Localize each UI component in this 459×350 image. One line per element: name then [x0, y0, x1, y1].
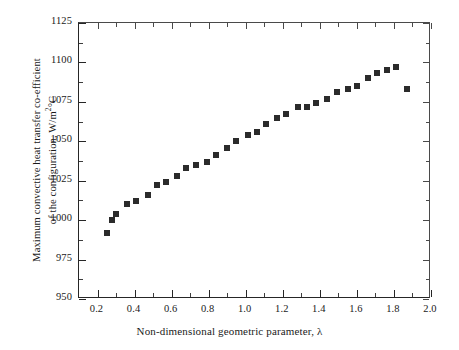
- x-axis-tick-top: [209, 23, 210, 29]
- x-axis-minor-tick-top: [338, 23, 339, 27]
- x-axis-minor-tick-top: [227, 23, 228, 27]
- data-point: [154, 182, 160, 188]
- x-axis-minor-tick: [375, 293, 376, 297]
- data-point: [324, 96, 330, 102]
- y-axis-tick-right: [423, 181, 429, 182]
- data-point: [304, 104, 310, 110]
- y-axis-tick: [79, 141, 86, 142]
- x-axis-tick-top: [135, 23, 136, 29]
- data-point: [313, 100, 319, 106]
- y-axis-tick: [79, 260, 86, 261]
- data-point: [295, 104, 301, 110]
- x-axis-tick-label: 1.8: [376, 303, 410, 314]
- y-axis-title: Maximum convective heat transfer co-effi…: [28, 22, 62, 298]
- x-axis-minor-tick: [412, 293, 413, 297]
- x-axis-tick: [135, 290, 136, 297]
- data-point: [245, 132, 251, 138]
- data-point: [263, 121, 269, 127]
- x-axis-tick: [209, 290, 210, 297]
- x-axis-minor-tick-top: [412, 23, 413, 27]
- data-point: [354, 83, 360, 89]
- y-axis-minor-tick-right: [426, 279, 430, 280]
- x-axis-minor-tick: [301, 293, 302, 297]
- y-axis-minor-tick: [79, 122, 83, 123]
- y-axis-minor-tick: [79, 161, 83, 162]
- y-axis-title-line1: Maximum convective heat transfer co-effi…: [31, 58, 42, 262]
- x-axis-tick-top: [98, 23, 99, 29]
- data-point: [145, 192, 151, 198]
- x-axis-tick-label: 0.6: [154, 303, 188, 314]
- x-axis-minor-tick: [227, 293, 228, 297]
- y-axis-minor-tick: [79, 279, 83, 280]
- x-axis-tick: [320, 290, 321, 297]
- data-point: [393, 64, 399, 70]
- x-axis-tick: [98, 290, 99, 297]
- data-point: [334, 89, 340, 95]
- x-axis-tick: [246, 290, 247, 297]
- y-axis-tick: [79, 181, 86, 182]
- data-points-layer: [79, 23, 429, 297]
- data-point: [183, 165, 189, 171]
- y-axis-title-exponent: 2: [44, 107, 53, 111]
- x-axis-tick-top: [320, 23, 321, 29]
- x-axis-tick-top: [172, 23, 173, 29]
- data-point: [133, 198, 139, 204]
- data-point: [233, 138, 239, 144]
- x-axis-tick: [431, 290, 432, 297]
- plot-area: [78, 22, 430, 298]
- x-axis-minor-tick-top: [153, 23, 154, 27]
- data-point: [109, 217, 115, 223]
- y-axis-minor-tick-right: [426, 161, 430, 162]
- x-axis-title: Non-dimensional geometric parameter, λ: [0, 325, 459, 337]
- data-point: [213, 152, 219, 158]
- y-axis-tick-right: [423, 299, 429, 300]
- x-axis-tick-top: [394, 23, 395, 29]
- x-axis-tick-top: [246, 23, 247, 29]
- data-point: [113, 211, 119, 217]
- x-axis-tick-label: 1.0: [228, 303, 262, 314]
- data-point: [345, 86, 351, 92]
- x-axis-tick-label: 0.2: [80, 303, 114, 314]
- x-axis-tick-label: 0.8: [191, 303, 225, 314]
- y-axis-minor-tick-right: [426, 200, 430, 201]
- x-axis-minor-tick-top: [264, 23, 265, 27]
- x-axis-tick: [172, 290, 173, 297]
- data-point: [274, 115, 280, 121]
- x-axis-minor-tick: [338, 293, 339, 297]
- x-axis-tick-label: 1.2: [265, 303, 299, 314]
- data-point: [174, 173, 180, 179]
- data-point: [365, 75, 371, 81]
- x-axis-tick: [357, 290, 358, 297]
- y-axis-minor-tick-right: [426, 240, 430, 241]
- y-axis-minor-tick-right: [426, 43, 430, 44]
- data-point: [193, 162, 199, 168]
- x-axis-minor-tick-top: [301, 23, 302, 27]
- y-axis-tick: [79, 299, 86, 300]
- x-axis-minor-tick-top: [116, 23, 117, 27]
- y-axis-minor-tick: [79, 82, 83, 83]
- x-axis-minor-tick-top: [190, 23, 191, 27]
- x-axis-tick-label: 0.4: [117, 303, 151, 314]
- x-axis-tick-label: 1.4: [302, 303, 336, 314]
- data-point: [163, 179, 169, 185]
- x-axis-tick-top: [431, 23, 432, 29]
- y-axis-title-line2-post: °C: [47, 96, 58, 108]
- y-axis-tick-right: [423, 141, 429, 142]
- y-axis-title-line2-pre: of the configuration, W/m: [47, 111, 58, 224]
- y-axis-tick-right: [423, 62, 429, 63]
- data-point: [104, 230, 110, 236]
- y-axis-tick-right: [423, 220, 429, 221]
- x-axis-tick: [394, 290, 395, 297]
- data-point: [374, 70, 380, 76]
- data-point: [124, 201, 130, 207]
- data-point: [384, 67, 390, 73]
- data-point: [254, 129, 260, 135]
- y-axis-tick: [79, 102, 86, 103]
- y-axis-tick: [79, 62, 86, 63]
- y-axis-minor-tick-right: [426, 122, 430, 123]
- x-axis-minor-tick: [116, 293, 117, 297]
- data-point: [404, 86, 410, 92]
- data-point: [204, 159, 210, 165]
- x-axis-minor-tick-top: [375, 23, 376, 27]
- data-point: [283, 111, 289, 117]
